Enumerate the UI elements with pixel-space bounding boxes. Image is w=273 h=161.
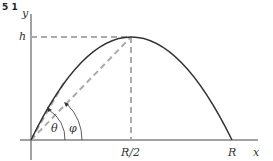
projectile-diagram: 5 1 y h R/2 R x θ φ [0,0,273,161]
y-axis-label: y [21,7,29,20]
phi-label: φ [69,122,77,135]
height-label: h [19,30,26,43]
half-range-label: R/2 [120,146,140,159]
figure-number: 5 1 [2,2,18,12]
theta-label: θ [51,122,58,135]
range-label: R [227,146,236,159]
apex-direction-dashed-line [31,37,131,140]
x-axis-label: x [253,146,260,159]
